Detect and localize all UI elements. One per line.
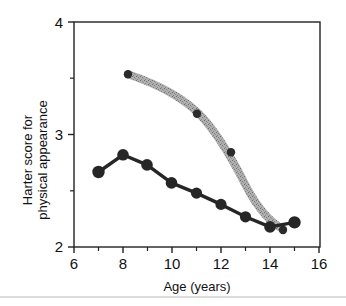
black-series-point [92,166,104,178]
y-axis-tick-labels: 2 3 4 [55,14,63,255]
y-tick-label-4: 4 [55,14,63,31]
gray-series-point [124,70,132,78]
gray-series-point [279,226,287,234]
x-tick-label-16: 16 [311,255,328,272]
x-tick-label-12: 12 [213,255,230,272]
y-tick-label-3: 3 [55,126,63,143]
black-series-point [141,159,153,171]
black-series-point [264,221,276,233]
chart-figure: 6 8 10 12 14 16 2 3 4 Age (years) Harter… [0,0,346,306]
gray-series-line [128,74,283,229]
x-axis-tick-labels: 6 8 10 12 14 16 [70,255,328,272]
black-series-point [288,216,300,228]
x-tick-label-8: 8 [119,255,127,272]
y-axis-title-line1: Harter score for [20,114,35,205]
black-series-point [215,199,226,210]
gray-series-point [193,110,201,118]
y-tick-label-2: 2 [55,238,63,255]
black-series-point [166,177,178,189]
y-axis-title-line2: physical appearance [35,100,50,219]
plot-frame [74,22,320,247]
harter-score-line-chart: 6 8 10 12 14 16 2 3 4 Age (years) Harter… [0,0,346,306]
black-series-point [240,211,251,222]
x-tick-label-14: 14 [262,255,279,272]
black-series-point [117,149,129,161]
x-tick-label-10: 10 [164,255,181,272]
x-axis-title: Age (years) [163,279,230,294]
series-gray-band [124,70,287,234]
black-series-point [191,188,202,199]
y-axis-title: Harter score for physical appearance [20,100,50,219]
x-tick-label-6: 6 [70,255,78,272]
y-axis-major-ticks [68,22,74,247]
gray-series-point [227,148,235,156]
